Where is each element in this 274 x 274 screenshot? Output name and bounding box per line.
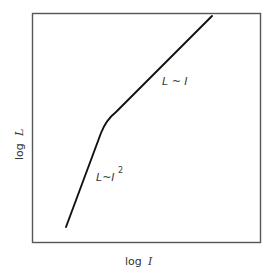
svg-text:I: I (147, 255, 153, 268)
svg-text:L: L (13, 129, 26, 137)
annotation-quadratic-exponent: 2 (118, 166, 123, 175)
svg-text:log: log (125, 255, 142, 268)
annotation-quadratic-regime: L~I (96, 171, 115, 184)
svg-text:log: log (13, 143, 26, 160)
plot-frame (33, 14, 261, 243)
loglog-figure: L ~ I L~I 2 log I log L (0, 0, 274, 274)
x-axis-label: log I (125, 255, 153, 268)
annotation-linear-regime: L ~ I (162, 75, 188, 88)
y-axis-label: log L (13, 129, 26, 160)
curve-log-L-vs-log-I (66, 16, 212, 227)
